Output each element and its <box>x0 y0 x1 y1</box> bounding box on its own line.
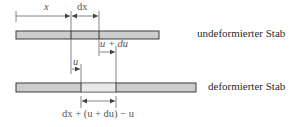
undeformed-bar <box>16 31 159 39</box>
label-deformed-length: dx + (u + du) − u <box>62 108 134 119</box>
deformed-bar <box>16 83 196 92</box>
label-undeformed-bar: undeformierter Stab <box>197 27 285 39</box>
label-x: x <box>44 1 49 12</box>
label-u: u <box>73 56 78 67</box>
dimension-dx <box>71 11 99 31</box>
dimension-deformed-length <box>81 96 116 108</box>
label-deformed-bar: deformierter Stab <box>208 80 285 92</box>
label-dx: dx <box>77 1 88 12</box>
label-u-plus-du: u + du <box>100 38 128 49</box>
dimension-x <box>16 11 70 22</box>
diagram-canvas <box>0 0 302 127</box>
